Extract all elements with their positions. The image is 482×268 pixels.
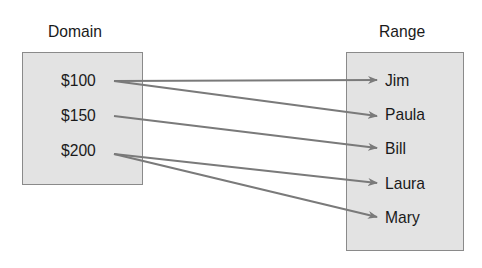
arrow-100-paula: [114, 81, 377, 116]
arrow-150-bill: [114, 116, 377, 148]
arrow-200-mary: [114, 154, 377, 217]
arrow-100-jim: [114, 80, 377, 81]
arrow-200-laura: [114, 154, 377, 183]
mapping-arrows: [0, 0, 482, 268]
